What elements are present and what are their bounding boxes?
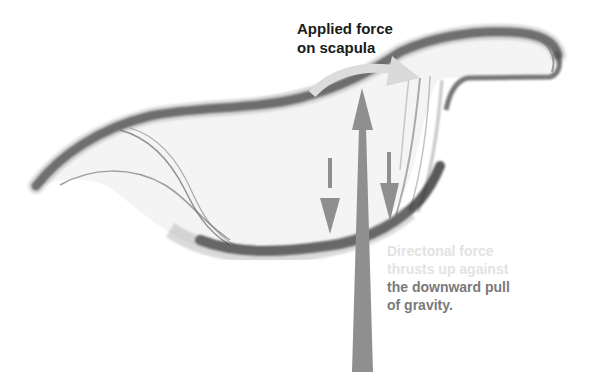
scapula-body-fill	[38, 33, 561, 255]
note-line-1: Directonal force	[387, 242, 510, 260]
scapula-sketch	[0, 0, 598, 389]
directional-force-note: Directonal force thrusts up against the …	[387, 242, 510, 314]
applied-force-line-1: Applied force	[297, 19, 393, 38]
note-line-2: thrusts up against	[387, 260, 510, 278]
gravity-arrow-right-shaft	[387, 152, 391, 186]
note-line-3: the downward pull	[387, 278, 510, 296]
gravity-arrow-left-shaft	[328, 158, 332, 188]
applied-force-label: Applied force on scapula	[297, 19, 393, 57]
scapula-force-diagram: Applied force on scapula Directonal forc…	[0, 0, 598, 389]
applied-force-line-2: on scapula	[297, 38, 393, 57]
note-line-4: of gravity.	[387, 296, 510, 314]
